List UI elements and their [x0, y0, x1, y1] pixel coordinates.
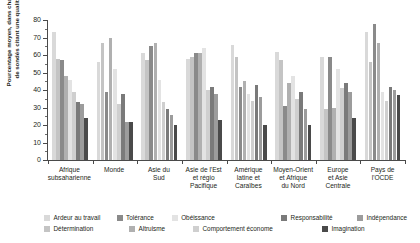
bar-group [316, 20, 361, 160]
y-tick [43, 20, 47, 21]
category-label: Pays de l'OCDE [360, 166, 405, 191]
legend-label: Indépendance [366, 214, 407, 221]
category-label: Afrique subsaharienne [47, 166, 92, 191]
legend-swatch-icon [129, 226, 135, 232]
x-group-tick [227, 160, 228, 164]
y-tick [43, 125, 47, 126]
legend-row-1: Ardeur au travailToléranceObéissanceResp… [44, 212, 416, 223]
y-tick [43, 90, 47, 91]
y-tick [43, 38, 47, 39]
bar [84, 118, 88, 160]
y-tick [43, 108, 47, 109]
y-tick-label: 50 [33, 69, 41, 76]
legend-label: Imagination [332, 225, 365, 232]
legend-item[interactable]: Comportement économe [193, 225, 313, 232]
bar [397, 95, 401, 160]
y-tick [43, 143, 47, 144]
y-minor-tick [45, 134, 48, 135]
legend-item[interactable]: Imagination [322, 225, 402, 232]
legend-item[interactable]: Indépendance [357, 214, 407, 221]
bar-group [182, 20, 227, 160]
y-tick-label: 30 [33, 104, 41, 111]
legend-label: Ardeur au travail [54, 214, 101, 221]
category-label: Asie de l'Est et régio Pacifique [181, 166, 226, 191]
y-tick-label: 70 [33, 34, 41, 41]
legend-swatch-icon [117, 215, 123, 221]
legend-item[interactable]: Ardeur au travail [44, 214, 108, 221]
bar [218, 120, 222, 160]
legend-swatch-icon [44, 226, 50, 232]
bar [308, 125, 312, 160]
category-label: Monde [92, 166, 137, 191]
bar-group [137, 20, 182, 160]
category-label: Amérique latine et Caraïbes [226, 166, 271, 191]
x-group-tick [316, 160, 317, 164]
legend-label: Altruisme [139, 225, 166, 232]
legend-swatch-icon [193, 226, 199, 232]
y-axis-title: Pourcentage moyen, dans chaque région, d… [5, 0, 25, 101]
y-minor-tick [45, 151, 48, 152]
x-axis-category-labels: Afrique subsaharienneMondeAsie du SudAsi… [47, 166, 405, 191]
y-minor-tick [45, 46, 48, 47]
legend-item[interactable]: Tolérance [117, 214, 163, 221]
bar [174, 125, 178, 160]
legend-item[interactable]: Altruisme [129, 225, 184, 232]
y-minor-tick [45, 64, 48, 65]
x-group-tick [182, 160, 183, 164]
y-tick-label: 80 [33, 16, 41, 23]
legend-item[interactable]: Responsabilité [281, 214, 348, 221]
legend-swatch-icon [281, 215, 287, 221]
category-label: Asie du Sud [137, 166, 182, 191]
legend-label: Obéissance [181, 214, 215, 221]
bar [263, 125, 267, 160]
y-tick-label: 0 [37, 156, 41, 163]
plot-area: 01020304050607080 [47, 20, 405, 160]
y-tick-label: 10 [33, 139, 41, 146]
legend-label: Détermination [54, 225, 94, 232]
legend-label: Comportement économe [203, 225, 273, 232]
bar-group [271, 20, 316, 160]
legend-item[interactable]: Obéissance [172, 214, 272, 221]
x-group-tick [48, 160, 49, 164]
legend-swatch-icon [172, 215, 178, 221]
bar [352, 118, 356, 160]
x-group-tick [360, 160, 361, 164]
bar-group [93, 20, 138, 160]
y-minor-tick [45, 116, 48, 117]
bar [129, 122, 133, 161]
legend-label: Responsabilité [291, 214, 333, 221]
y-tick [43, 160, 47, 161]
bar-group [360, 20, 405, 160]
y-minor-tick [45, 29, 48, 30]
bar-group [48, 20, 93, 160]
x-group-tick [137, 160, 138, 164]
bar-group [227, 20, 272, 160]
y-tick [43, 55, 47, 56]
bar-groups [48, 20, 405, 160]
x-group-tick [405, 160, 406, 164]
x-group-tick [271, 160, 272, 164]
legend-swatch-icon [44, 215, 50, 221]
y-minor-tick [45, 81, 48, 82]
chart-legend: Ardeur au travailToléranceObéissanceResp… [44, 212, 416, 234]
category-label: Moyen-Orient et Afrique du Nord [271, 166, 316, 191]
y-minor-tick [45, 99, 48, 100]
y-tick [43, 73, 47, 74]
y-tick-label: 40 [33, 86, 41, 93]
y-tick-label: 60 [33, 51, 41, 58]
legend-item[interactable]: Détermination [44, 225, 120, 232]
legend-label: Tolérance [126, 214, 154, 221]
legend-row-2: DéterminationAltruismeComportement écono… [44, 223, 416, 234]
x-group-tick [93, 160, 94, 164]
y-tick-label: 20 [33, 121, 41, 128]
grouped-bar-chart: Pourcentage moyen, dans chaque région, d… [0, 0, 420, 243]
legend-swatch-icon [357, 215, 363, 221]
category-label: Europe et Asie Centrale [316, 166, 361, 191]
legend-swatch-icon [322, 226, 328, 232]
